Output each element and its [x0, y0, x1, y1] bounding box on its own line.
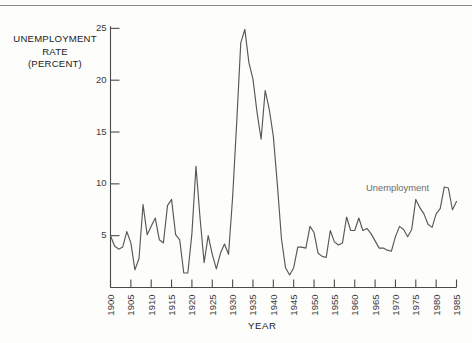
axes-group	[111, 26, 457, 287]
x-tick-label: 1925	[207, 295, 218, 316]
chart-plot-area: 510152025 190019051910191519201925193019…	[0, 0, 472, 343]
y-tick-label: 25	[96, 22, 107, 33]
x-tick-label: 1955	[329, 295, 340, 316]
x-tick-label: 1960	[349, 295, 360, 316]
x-tick-label: 1900	[105, 295, 116, 316]
x-tick-label: 1940	[268, 295, 279, 316]
y-tick-label: 10	[96, 177, 107, 188]
x-tick-label: 1920	[186, 295, 197, 316]
x-tick-label: 1935	[247, 295, 258, 316]
x-tick-label: 1985	[451, 295, 462, 316]
x-tick-label: 1930	[227, 295, 238, 316]
x-tick-label: 1975	[410, 295, 421, 316]
y-tick-label: 5	[101, 229, 106, 240]
y-tick-label: 20	[96, 74, 107, 85]
chart-figure: UNEMPLOYMENT RATE (PERCENT) YEAR Unemplo…	[0, 0, 472, 343]
x-tick-label: 1905	[125, 295, 136, 316]
x-tick-label: 1980	[431, 295, 442, 316]
x-tick-label: 1950	[309, 295, 320, 316]
x-tick-group: 1900190519101915192019251930193519401945…	[105, 280, 462, 316]
y-tick-group: 510152025	[96, 22, 120, 240]
x-tick-label: 1970	[390, 295, 401, 316]
x-tick-label: 1915	[166, 295, 177, 316]
x-tick-label: 1910	[146, 295, 157, 316]
unemployment-line-series	[111, 29, 457, 275]
x-tick-label: 1965	[370, 295, 381, 316]
x-tick-label: 1945	[288, 295, 299, 316]
y-tick-label: 15	[96, 126, 107, 137]
